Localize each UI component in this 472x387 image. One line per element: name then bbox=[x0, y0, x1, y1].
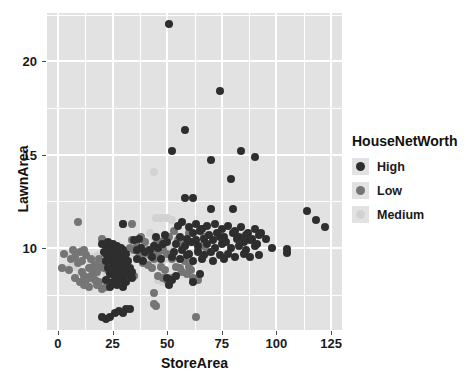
legend-dot-icon bbox=[356, 186, 365, 195]
data-point-low bbox=[152, 302, 160, 310]
data-point-high bbox=[189, 278, 197, 286]
data-point-low bbox=[85, 283, 93, 291]
data-point-high bbox=[255, 251, 263, 259]
x-tick-mark bbox=[276, 331, 277, 335]
data-point-low bbox=[71, 274, 79, 282]
data-point-low bbox=[150, 289, 158, 297]
legend-item-label: High bbox=[377, 160, 405, 174]
x-tick-mark bbox=[222, 331, 223, 335]
data-point-low bbox=[74, 218, 82, 226]
data-point-high bbox=[312, 216, 320, 224]
legend-item-high[interactable]: High bbox=[352, 156, 470, 177]
legend-items: HighLowMedium bbox=[352, 156, 470, 225]
data-point-high bbox=[161, 231, 169, 239]
data-point-high bbox=[172, 272, 180, 280]
grid-line-horizontal-minor bbox=[47, 295, 342, 296]
y-tick-label: 20 bbox=[7, 54, 37, 69]
data-point-high bbox=[246, 253, 254, 261]
x-tick-mark bbox=[58, 331, 59, 335]
data-point-high bbox=[268, 244, 276, 252]
grid-line-horizontal-minor bbox=[47, 15, 342, 16]
x-tick-label: 50 bbox=[160, 336, 174, 351]
grid-line-horizontal-minor bbox=[47, 201, 342, 202]
data-point-high bbox=[128, 274, 136, 282]
data-point-medium bbox=[150, 168, 158, 176]
x-tick-label: 75 bbox=[215, 336, 229, 351]
data-point-high bbox=[198, 255, 206, 263]
legend-item-label: Medium bbox=[377, 208, 424, 222]
x-tick-mark bbox=[113, 331, 114, 335]
legend-item-medium[interactable]: Medium bbox=[352, 204, 470, 225]
legend: HouseNetWorth HighLowMedium bbox=[352, 133, 470, 228]
data-point-high bbox=[231, 253, 239, 261]
data-point-high bbox=[119, 283, 127, 291]
data-point-high bbox=[181, 194, 189, 202]
y-tick-mark bbox=[42, 61, 46, 62]
data-point-high bbox=[181, 126, 189, 134]
data-point-high bbox=[262, 235, 270, 243]
legend-title: HouseNetWorth bbox=[352, 133, 470, 149]
data-point-high bbox=[189, 194, 197, 202]
data-point-high bbox=[126, 305, 134, 313]
grid-line-horizontal-minor bbox=[47, 108, 342, 109]
data-point-high bbox=[220, 255, 228, 263]
data-point-high bbox=[207, 205, 215, 213]
legend-item-label: Low bbox=[377, 184, 402, 198]
data-point-high bbox=[237, 147, 245, 155]
x-tick-label: 125 bbox=[320, 336, 342, 351]
data-point-high bbox=[148, 253, 156, 261]
x-tick-label: 100 bbox=[266, 336, 288, 351]
y-axis-title: LawnArea bbox=[15, 119, 31, 239]
legend-key-swatch bbox=[352, 206, 369, 223]
data-point-high bbox=[227, 175, 235, 183]
data-point-high bbox=[174, 222, 182, 230]
legend-key-swatch bbox=[352, 158, 369, 175]
data-point-high bbox=[209, 257, 217, 265]
data-point-high bbox=[163, 238, 171, 246]
data-point-high bbox=[157, 255, 165, 263]
data-point-high bbox=[207, 156, 215, 164]
grid-line-horizontal-major bbox=[47, 60, 342, 62]
data-point-high bbox=[207, 248, 215, 256]
data-point-low bbox=[128, 220, 136, 228]
scatter-plot-figure: 0255075100125 101520 StoreArea LawnArea … bbox=[0, 0, 472, 387]
data-point-high bbox=[135, 235, 143, 243]
data-point-low bbox=[74, 259, 82, 267]
data-point-high bbox=[283, 249, 291, 257]
data-point-high bbox=[303, 207, 311, 215]
y-tick-mark bbox=[42, 248, 46, 249]
data-point-high bbox=[139, 257, 147, 265]
data-point-high bbox=[196, 270, 204, 278]
legend-key-swatch bbox=[352, 182, 369, 199]
grid-line-horizontal-major bbox=[47, 154, 342, 156]
data-point-high bbox=[168, 147, 176, 155]
legend-dot-icon bbox=[356, 210, 365, 219]
data-point-high bbox=[251, 242, 259, 250]
data-point-high bbox=[216, 87, 224, 95]
data-point-high bbox=[119, 220, 127, 228]
data-point-high bbox=[229, 205, 237, 213]
legend-dot-icon bbox=[356, 162, 365, 171]
data-point-high bbox=[218, 240, 226, 248]
x-tick-label: 25 bbox=[105, 336, 119, 351]
data-point-low bbox=[65, 266, 73, 274]
x-tick-mark bbox=[167, 331, 168, 335]
data-point-high bbox=[251, 153, 259, 161]
x-axis-title: StoreArea bbox=[47, 355, 342, 371]
data-point-high bbox=[152, 233, 160, 241]
data-point-high bbox=[168, 253, 176, 261]
data-point-high bbox=[165, 281, 173, 289]
data-point-high bbox=[321, 223, 329, 231]
x-tick-label: 0 bbox=[54, 336, 61, 351]
y-tick-label: 10 bbox=[7, 240, 37, 255]
data-point-high bbox=[165, 20, 173, 28]
data-point-high bbox=[203, 222, 211, 230]
y-tick-mark bbox=[42, 155, 46, 156]
data-point-high bbox=[189, 257, 197, 265]
data-point-low bbox=[157, 263, 165, 271]
data-point-low bbox=[93, 281, 101, 289]
data-point-low bbox=[192, 313, 200, 321]
legend-item-low[interactable]: Low bbox=[352, 180, 470, 201]
plot-panel bbox=[47, 13, 342, 330]
x-tick-mark bbox=[331, 331, 332, 335]
